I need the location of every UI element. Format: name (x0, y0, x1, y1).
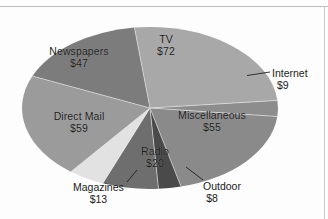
slice-label-radio: Radio $20 (131, 146, 179, 169)
slice-label-internet-name: Internet (272, 67, 308, 79)
slice-label-radio-name: Radio (141, 145, 169, 157)
slice-label-radio-value: $20 (131, 158, 179, 170)
slice-label-newspapers: Newspapers $47 (39, 46, 119, 69)
slice-label-internet-value: $9 (272, 80, 308, 92)
slice-label-outdoor-value: $8 (203, 193, 241, 205)
slice-label-newspapers-value: $47 (39, 58, 119, 70)
slice-label-magazines-value: $13 (73, 194, 124, 206)
slice-label-magazines-name: Magazines (73, 181, 124, 193)
slice-label-tv: TV $72 (140, 34, 192, 57)
slice-label-miscellaneous-value: $55 (168, 122, 256, 134)
slice-label-outdoor: Outdoor $8 (203, 181, 241, 204)
slice-label-direct-mail-value: $59 (44, 123, 114, 135)
slice-label-magazines: Magazines $13 (73, 182, 124, 205)
slice-label-direct-mail-name: Direct Mail (54, 110, 105, 122)
slice-label-miscellaneous: Miscellaneous $55 (168, 110, 256, 133)
slice-label-miscellaneous-name: Miscellaneous (178, 109, 246, 121)
pie-chart-figure: TV $72 Miscellaneous $55 Radio $20 Direc… (0, 0, 328, 219)
slice-label-tv-name: TV (159, 33, 173, 45)
slice-label-internet: Internet $9 (272, 68, 308, 91)
slice-label-direct-mail: Direct Mail $59 (44, 111, 114, 134)
slice-label-outdoor-name: Outdoor (203, 180, 241, 192)
slice-label-tv-value: $72 (140, 46, 192, 58)
slice-label-newspapers-name: Newspapers (49, 45, 108, 57)
